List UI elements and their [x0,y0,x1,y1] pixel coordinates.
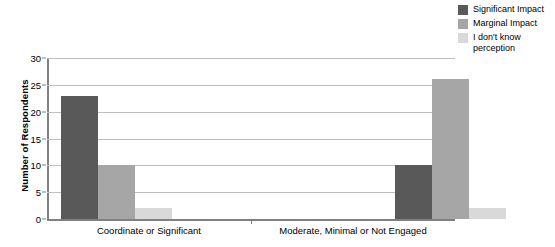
y-tick-label: 30 [30,53,41,64]
legend-label: Marginal Impact [473,18,537,29]
y-tick-mark [42,192,46,193]
bar[interactable] [395,165,432,219]
y-tick-label: 15 [30,133,41,144]
y-tick-label: 20 [30,106,41,117]
y-axis-title: Number of Respondents [19,51,30,221]
y-tick-label: 25 [30,79,41,90]
y-tick-mark [42,219,46,220]
x-axis-category-label: Coordinate or Significant [97,225,201,236]
y-tick-label: 10 [30,160,41,171]
bar[interactable] [432,79,469,219]
category-separator-tick [251,219,252,224]
legend-item[interactable]: I don't know perception [458,32,553,54]
legend-item[interactable]: Marginal Impact [458,18,553,29]
legend-label: I don't know perception [473,32,521,54]
legend-label: Significant Impact [473,4,544,15]
bar[interactable] [61,96,98,219]
y-tick-mark [42,165,46,166]
x-axis-category-label: Moderate, Minimal or Not Engaged [279,225,426,236]
bar[interactable] [135,208,172,219]
bar[interactable] [469,208,506,219]
y-tick-mark [42,58,46,59]
plot-area: 051015202530Coordinate or SignificantMod… [47,58,455,219]
legend-swatch-icon [458,5,468,15]
y-tick-mark [42,111,46,112]
bar-group [395,58,506,219]
bar-group [61,58,172,219]
y-tick-label: 5 [36,187,41,198]
bar[interactable] [98,165,135,219]
y-tick-mark [42,138,46,139]
legend-swatch-icon [458,33,468,43]
bar-chart: Number of Respondents 051015202530Coordi… [0,0,555,247]
legend-item[interactable]: Significant Impact [458,4,553,15]
chart-legend: Significant ImpactMarginal ImpactI don't… [458,4,553,57]
y-tick-mark [42,84,46,85]
legend-swatch-icon [458,19,468,29]
y-tick-label: 0 [36,214,41,225]
